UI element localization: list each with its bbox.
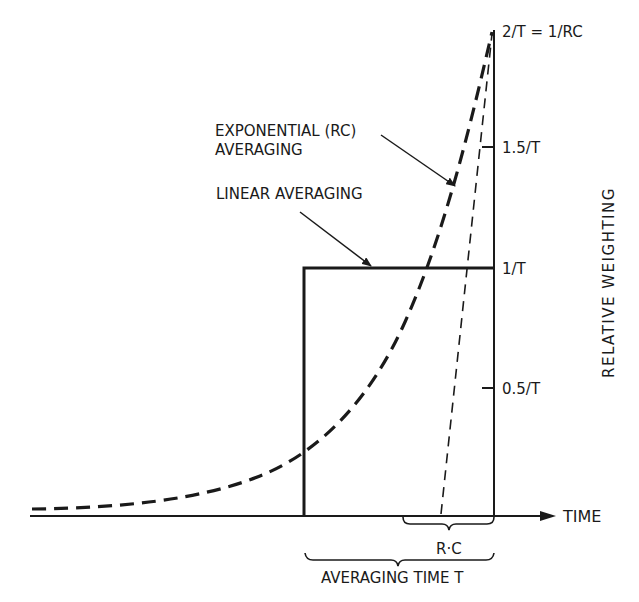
weighting-axis: 2/T = 1/RC 1.5/T 1/T 0.5/T RELATIVE WEIG… bbox=[482, 23, 618, 516]
rc-brace: R·C bbox=[403, 517, 494, 558]
tick-label-2T: 2/T = 1/RC bbox=[502, 23, 583, 41]
rc-tangent-line bbox=[441, 34, 492, 514]
linear-leader-arrow bbox=[300, 212, 371, 266]
time-axis-arrow-icon bbox=[540, 511, 556, 521]
linear-label: LINEAR AVERAGING bbox=[216, 185, 363, 203]
averaging-time-brace: AVERAGING TIME T bbox=[305, 553, 494, 587]
time-axis: TIME bbox=[30, 507, 601, 526]
exponential-leader-arrow bbox=[381, 135, 455, 186]
exponential-label-group: EXPONENTIAL (RC) AVERAGING bbox=[215, 122, 455, 186]
tick-label-1T: 1/T bbox=[502, 260, 527, 278]
rc-brace-label: R·C bbox=[436, 540, 462, 558]
linear-averaging-window bbox=[304, 268, 494, 516]
exponential-weighting-curve bbox=[32, 32, 492, 509]
linear-label-group: LINEAR AVERAGING bbox=[216, 185, 371, 266]
y-axis-label: RELATIVE WEIGHTING bbox=[600, 187, 618, 378]
exponential-label-line2: AVERAGING bbox=[215, 141, 303, 159]
averaging-time-label: AVERAGING TIME T bbox=[321, 569, 464, 587]
averaging-weighting-diagram: TIME 2/T = 1/RC 1.5/T 1/T 0.5/T RELATIVE… bbox=[0, 0, 639, 602]
exponential-label-line1: EXPONENTIAL (RC) bbox=[215, 122, 356, 140]
tick-label-0.5T: 0.5/T bbox=[502, 380, 541, 398]
time-axis-label: TIME bbox=[562, 507, 601, 526]
tick-label-1.5T: 1.5/T bbox=[502, 139, 541, 157]
